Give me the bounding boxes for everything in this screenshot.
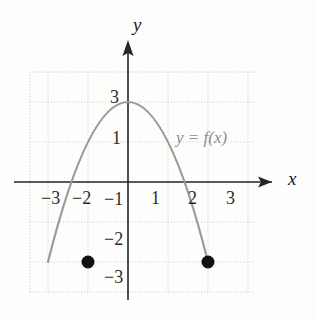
tick-label-y-neg2: −2 (104, 229, 123, 250)
tick-label-y-neg3: −3 (104, 267, 123, 288)
x-axis-name: x (288, 168, 296, 190)
tick-label-x-neg3: −3 (41, 188, 60, 209)
endpoint-left-closed (82, 256, 95, 269)
tick-label-x-1: 1 (151, 188, 160, 209)
tick-label-y-1: 1 (112, 128, 121, 149)
y-axis-name: y (133, 14, 141, 36)
tick-label-x-3: 3 (226, 188, 235, 209)
function-label: y = f(x) (176, 128, 227, 148)
plot-canvas (0, 0, 316, 321)
endpoint-right-closed (202, 256, 215, 269)
tick-label-x-neg2: −2 (72, 188, 91, 209)
x-axis (14, 177, 272, 188)
graph-figure: y x y = f(x) −3 −2 1 2 3 3 1 −1 −2 −3 (0, 0, 316, 321)
tick-label-y-neg1: −1 (104, 189, 123, 210)
y-axis (123, 40, 134, 300)
tick-label-y-3: 3 (110, 87, 119, 108)
tick-label-x-2: 2 (188, 188, 197, 209)
